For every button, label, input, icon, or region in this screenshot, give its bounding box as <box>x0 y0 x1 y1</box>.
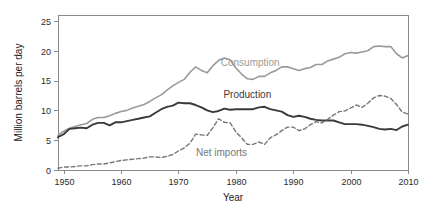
series-label-consumption: Consumption <box>221 57 280 68</box>
x-tick-label: 2010 <box>398 177 418 187</box>
y-tick-label: 0 <box>46 166 51 176</box>
oil-chart-figure: 05101520251950196019701980199020002010Ye… <box>0 0 434 215</box>
chart-svg: 05101520251950196019701980199020002010Ye… <box>0 0 434 215</box>
x-tick-label: 1960 <box>111 177 131 187</box>
x-axis-title: Year <box>223 192 244 203</box>
series-label-net-imports: Net imports <box>196 147 247 158</box>
x-tick-label: 1950 <box>54 177 74 187</box>
y-tick-label: 10 <box>41 106 51 116</box>
x-tick-label: 2000 <box>341 177 361 187</box>
y-tick-label: 5 <box>46 136 51 146</box>
y-tick-label: 25 <box>41 17 51 27</box>
y-axis-title: Million barrels per day <box>13 44 24 142</box>
x-tick-label: 1980 <box>226 177 246 187</box>
y-tick-label: 15 <box>41 76 51 86</box>
series-label-production: Production <box>223 89 271 100</box>
x-tick-label: 1970 <box>168 177 188 187</box>
x-tick-label: 1990 <box>283 177 303 187</box>
y-tick-label: 20 <box>41 47 51 57</box>
series-line-production <box>58 103 408 138</box>
